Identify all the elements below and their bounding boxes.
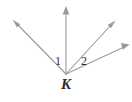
ray-vertical-up (63, 6, 70, 74)
ray-vertical-up-arrow-icon (63, 6, 70, 15)
ray-right-arrow-icon (121, 43, 130, 50)
angle-diagram-figure: 1 2 K (0, 0, 132, 102)
vertex-label-k: K (61, 77, 71, 92)
ray-right (66, 43, 130, 74)
angle-label-2: 2 (81, 55, 87, 67)
angle-label-1: 1 (55, 55, 61, 67)
ray-upper-right-line (66, 25, 112, 75)
ray-right-line (66, 47, 125, 74)
ray-upper-right (66, 21, 116, 75)
